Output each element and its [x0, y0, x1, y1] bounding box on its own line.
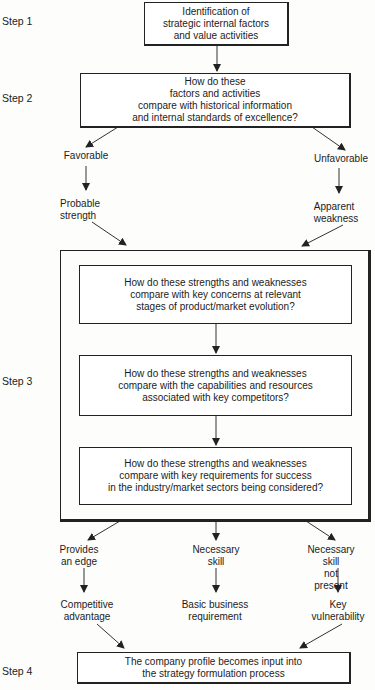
compare-evolution-box: How do these strengths and weaknesses co…	[79, 265, 352, 324]
provides-edge-label: Provides an edge	[60, 544, 99, 568]
compare-competitors-box: How do these strengths and weaknesses co…	[79, 355, 352, 416]
unfavorable-label: Unfavorable	[314, 153, 368, 165]
favorable-label: Favorable	[64, 150, 108, 162]
identify-box: Identification of strategic internal fac…	[144, 2, 289, 46]
compare-requirements-box: How do these strengths and weaknesses co…	[79, 447, 352, 505]
apparent-weakness-label: Apparent weakness	[314, 201, 358, 225]
step-1-label: Step 1	[2, 15, 32, 27]
company-profile-box: The company profile becomes input into t…	[77, 652, 351, 684]
probable-strength-label: Probable strength	[60, 198, 100, 222]
basic-requirement-label: Basic business requirement	[182, 599, 249, 623]
step-2-label: Step 2	[2, 92, 32, 104]
step-4-label: Step 4	[2, 665, 32, 677]
skill-not-present-label: Necessary skill not present	[307, 544, 354, 592]
key-vulnerability-label: Key vulnerability	[312, 599, 365, 623]
compare-history-box: How do these factors and activities comp…	[80, 73, 351, 128]
competitive-advantage-label: Competitive advantage	[61, 599, 114, 623]
step-3-label: Step 3	[2, 375, 32, 387]
necessary-skill-label: Necessary skill	[192, 544, 239, 568]
